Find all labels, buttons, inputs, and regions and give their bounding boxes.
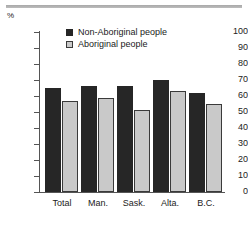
grouped-bar-chart: 0102030405060708090100 TotalMan.Sask.Alt… bbox=[0, 0, 248, 225]
outlined-square-icon bbox=[66, 41, 73, 48]
legend-item: Non-Aboriginal people bbox=[66, 27, 167, 38]
bar-bc-aboriginal bbox=[206, 104, 222, 192]
y-axis-tick bbox=[34, 112, 39, 113]
y-axis-tick bbox=[34, 96, 39, 97]
y-axis-tick-label: 30 bbox=[222, 139, 248, 148]
bar-man-aboriginal bbox=[98, 98, 114, 192]
y-axis-tick bbox=[34, 128, 39, 129]
legend-item: Aboriginal people bbox=[66, 39, 167, 50]
y-axis-tick bbox=[34, 64, 39, 65]
y-axis-tick-label: 90 bbox=[222, 43, 248, 52]
y-axis-tick-label: 20 bbox=[222, 155, 248, 164]
y-axis-tick bbox=[34, 160, 39, 161]
bar-sask-non-aboriginal bbox=[117, 86, 133, 192]
y-axis-tick bbox=[34, 192, 39, 193]
bar-man-non-aboriginal bbox=[81, 86, 97, 192]
chart-legend: Non-Aboriginal people Aboriginal people bbox=[66, 27, 167, 51]
x-axis-label-bc: B.C. bbox=[183, 198, 229, 208]
y-axis-tick-label: 40 bbox=[222, 123, 248, 132]
y-axis-tick-label: 100 bbox=[222, 27, 248, 36]
y-axis-tick bbox=[34, 80, 39, 81]
y-axis-tick-label: 80 bbox=[222, 59, 248, 68]
x-axis-line bbox=[39, 192, 225, 193]
y-axis-tick bbox=[34, 176, 39, 177]
legend-item-label: Non-Aboriginal people bbox=[78, 28, 167, 37]
y-axis-tick-label: 10 bbox=[222, 171, 248, 180]
bar-total-aboriginal bbox=[62, 101, 78, 192]
y-axis-tick-label: 0 bbox=[222, 187, 248, 196]
legend-item-label: Aboriginal people bbox=[78, 40, 148, 49]
y-axis-tick bbox=[34, 48, 39, 49]
y-axis-tick-label: 50 bbox=[222, 107, 248, 116]
y-axis-tick bbox=[34, 144, 39, 145]
bar-alta-aboriginal bbox=[170, 91, 186, 192]
bar-alta-non-aboriginal bbox=[153, 80, 169, 192]
bar-bc-non-aboriginal bbox=[189, 93, 205, 192]
bar-total-non-aboriginal bbox=[45, 88, 61, 192]
y-axis-tick-label: 60 bbox=[222, 91, 248, 100]
filled-square-icon bbox=[66, 29, 73, 36]
y-axis-tick-label: 70 bbox=[222, 75, 248, 84]
y-axis-tick bbox=[34, 32, 39, 33]
bar-sask-aboriginal bbox=[134, 110, 150, 192]
y-axis-line bbox=[39, 31, 40, 193]
